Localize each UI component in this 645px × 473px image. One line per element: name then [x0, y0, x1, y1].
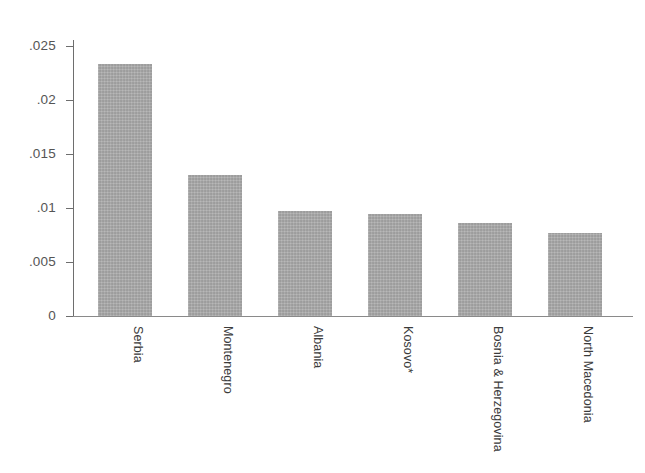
- y-axis-tick-label: .005: [8, 255, 56, 269]
- x-axis-label-text: North Macedonia: [581, 326, 594, 423]
- x-axis-label: Bosnia & Herzegovina: [491, 326, 504, 452]
- y-axis-tick: [66, 100, 73, 101]
- bar: [98, 64, 152, 316]
- bar: [548, 233, 602, 316]
- y-axis-tick-label: 0: [8, 309, 56, 323]
- x-axis-label: Montenegro: [221, 326, 234, 394]
- x-axis-label-text: Albania: [311, 326, 324, 368]
- y-axis-tick: [66, 262, 73, 263]
- x-axis-label: Kosovo*: [401, 326, 414, 373]
- x-axis-label-text: Montenegro: [221, 326, 234, 394]
- x-axis-label: North Macedonia: [581, 326, 594, 423]
- x-axis-label: Albania: [311, 326, 324, 368]
- y-axis-tick-label: .025: [8, 39, 56, 53]
- x-axis-label-text: Kosovo*: [401, 326, 414, 373]
- plot-area: 0.005.01.015.02.025 SerbiaMontenegroAlba…: [0, 0, 645, 473]
- bar-chart: 0.005.01.015.02.025 SerbiaMontenegroAlba…: [0, 0, 645, 473]
- x-axis-label: Serbia: [131, 326, 144, 363]
- y-axis-tick: [66, 316, 73, 317]
- bar: [278, 211, 332, 316]
- bar: [368, 214, 422, 316]
- x-axis-label-text: Serbia: [131, 326, 144, 363]
- y-axis-tick: [66, 154, 73, 155]
- y-axis-tick-label: .01: [8, 201, 56, 215]
- y-axis-tick-label: .015: [8, 147, 56, 161]
- bar: [188, 175, 242, 316]
- y-axis-tick: [66, 208, 73, 209]
- x-axis-label-text: Bosnia & Herzegovina: [491, 326, 504, 452]
- y-axis-line: [73, 40, 74, 317]
- x-axis-line: [73, 316, 633, 317]
- y-axis-tick: [66, 46, 73, 47]
- bar: [458, 223, 512, 316]
- y-axis-tick-label: .02: [8, 93, 56, 107]
